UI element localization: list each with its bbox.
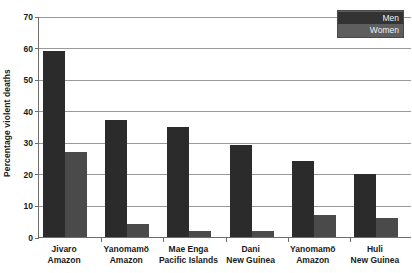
x-axis-tick-mark <box>288 237 289 242</box>
x-axis-tick-mark <box>226 237 227 242</box>
bar-men <box>167 127 189 238</box>
x-axis-label-line1: Mae Enga <box>169 244 209 254</box>
x-axis-label-line2: Amazon <box>95 255 157 266</box>
legend-item-men[interactable]: Men <box>338 12 403 24</box>
bar-women <box>252 231 274 237</box>
x-axis-label-line2: Amazon <box>33 255 95 266</box>
y-axis-tick-label: 30 <box>24 138 33 148</box>
x-axis-label: Mae EngaPacific Islands <box>157 244 219 266</box>
x-axis-tick-mark <box>163 237 164 242</box>
bar-women <box>65 152 87 237</box>
chart-legend[interactable]: Men Women <box>337 10 404 38</box>
y-axis-tick-label: 50 <box>24 75 33 85</box>
plot-area: 010203040506070 <box>38 17 411 238</box>
x-axis-label-line2: Pacific Islands <box>157 255 219 266</box>
x-axis-label: YanomamöAmazon <box>95 244 157 266</box>
x-axis-label-line1: Dani <box>241 244 259 254</box>
legend-item-women[interactable]: Women <box>338 24 403 36</box>
bar-men <box>105 120 127 237</box>
bar-group <box>101 17 163 237</box>
x-axis-labels: JivaroAmazonYanomamöAmazonMae EngaPacifi… <box>38 244 411 273</box>
x-axis-label-line1: Huli <box>367 244 383 254</box>
bar-group <box>288 17 350 237</box>
y-axis-title: Percentage violent deaths <box>0 0 14 245</box>
x-axis-tick-mark <box>101 237 102 242</box>
bar-men <box>292 161 314 237</box>
bar-men <box>354 174 376 237</box>
x-axis-label-line2: New Guinea <box>344 255 406 266</box>
x-axis-label-line2: Amazon <box>282 255 344 266</box>
y-axis-tick-label: 20 <box>24 170 33 180</box>
x-axis-label: HuliNew Guinea <box>344 244 406 266</box>
y-axis-tick-label: 40 <box>24 107 33 117</box>
y-axis-tick-mark <box>35 238 39 239</box>
bar-group <box>163 17 225 237</box>
x-axis-label: JivaroAmazon <box>33 244 95 266</box>
x-axis-label: YanomamöAmazon <box>282 244 344 266</box>
x-axis-label-line1: Jivaro <box>52 244 77 254</box>
bar-chart: Percentage violent deaths 01020304050607… <box>0 0 412 273</box>
y-axis-tick-label: 70 <box>24 12 33 22</box>
x-axis-label-line2: New Guinea <box>220 255 282 266</box>
legend-item-men-label: Men <box>382 13 399 23</box>
x-axis-label: DaniNew Guinea <box>220 244 282 266</box>
x-axis-label-line1: Yanomamö <box>290 244 335 254</box>
bar-women <box>127 224 149 237</box>
y-axis-tick-label: 0 <box>28 233 33 243</box>
bar-group <box>39 17 101 237</box>
bar-men <box>230 145 252 237</box>
x-axis-tick-mark <box>350 237 351 242</box>
x-axis-label-line1: Yanomamö <box>104 244 149 254</box>
bar-group <box>226 17 288 237</box>
y-axis-tick-label: 10 <box>24 201 33 211</box>
bar-women <box>189 231 211 237</box>
bar-women <box>314 215 336 237</box>
y-axis-tick-label: 60 <box>24 44 33 54</box>
bar-men <box>43 51 65 237</box>
bar-group <box>350 17 412 237</box>
bar-women <box>376 218 398 237</box>
legend-item-women-label: Women <box>370 25 399 35</box>
y-axis-title-label: Percentage violent deaths <box>2 69 12 177</box>
